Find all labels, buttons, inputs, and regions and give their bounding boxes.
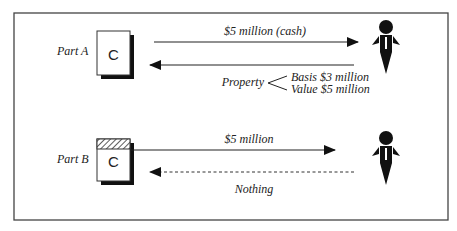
corporation-box-b: C <box>97 139 134 185</box>
entity-letter: C <box>108 46 119 63</box>
shareholder-person-icon <box>372 20 400 74</box>
entity-letter: C <box>108 153 119 170</box>
property-value: Value $5 million <box>291 82 370 96</box>
part-a: Part A C $5 million (cash) Property Basi… <box>56 20 400 96</box>
transaction-diagram: Part A C $5 million (cash) Property Basi… <box>0 0 457 231</box>
property-label: Property <box>221 75 265 89</box>
nothing-label: Nothing <box>234 182 274 196</box>
part-a-label: Part A <box>56 44 89 58</box>
part-b-label: Part B <box>56 152 89 166</box>
money-label: $5 million <box>224 132 273 146</box>
shareholder-person-icon <box>372 131 400 185</box>
hatched-lid <box>97 139 130 149</box>
bracket-icon <box>268 76 287 90</box>
cash-label: $5 million (cash) <box>224 24 306 38</box>
corporation-box-a: C <box>97 31 134 79</box>
part-b: Part B C $5 million Nothing <box>56 131 400 196</box>
